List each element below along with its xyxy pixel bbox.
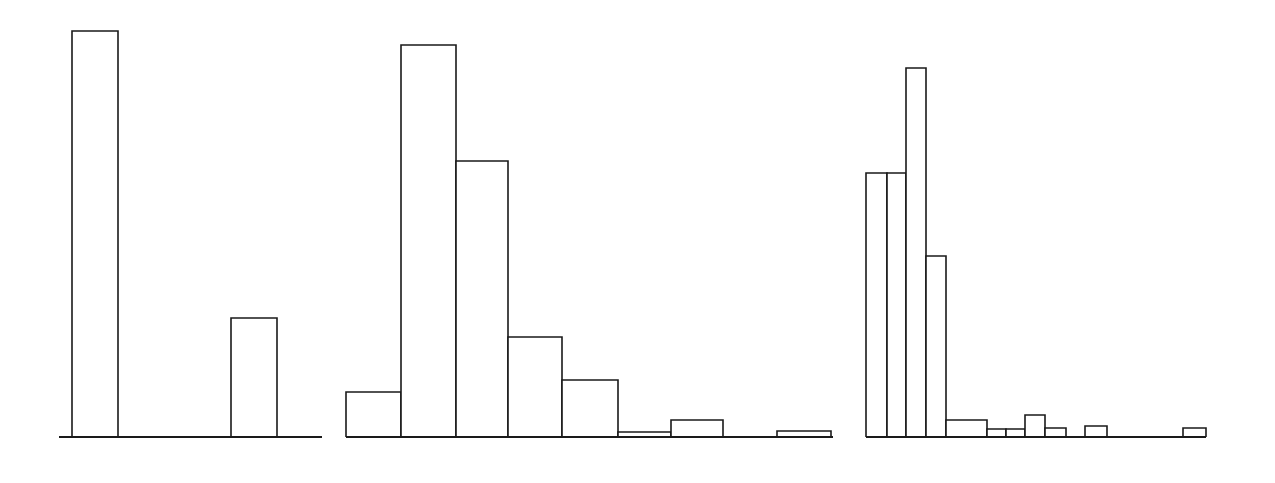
histogram-bar [1045, 428, 1066, 437]
histogram-bar [231, 318, 277, 437]
histogram-bar [401, 45, 456, 437]
histogram-bar [906, 68, 926, 437]
histogram-bar [866, 173, 887, 437]
histogram-bar [508, 337, 562, 437]
histogram-bar [562, 380, 618, 437]
panel-middle-histogram [346, 45, 833, 437]
histogram-bar [926, 256, 946, 437]
panel-left-histogram [59, 31, 322, 437]
histogram-bar [1006, 429, 1025, 437]
histogram-bar [346, 392, 401, 437]
histogram-bar [456, 161, 508, 437]
histogram-bar [72, 31, 118, 437]
panel-right-histogram [866, 68, 1206, 437]
histogram-bar [1025, 415, 1045, 437]
histogram-bar [1183, 428, 1206, 437]
histogram-bar [987, 429, 1006, 437]
histogram-bar [671, 420, 723, 437]
histogram-bar [946, 420, 987, 437]
histogram-canvas [0, 0, 1275, 483]
histogram-figure [0, 0, 1275, 483]
histogram-bar [1085, 426, 1107, 437]
histogram-bar [887, 173, 906, 437]
